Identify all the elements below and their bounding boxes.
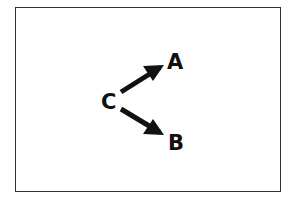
arrow-layer bbox=[0, 0, 298, 204]
node-label-c: C bbox=[101, 92, 116, 113]
arrow-c-to-b bbox=[121, 109, 164, 135]
arrow-c-to-a bbox=[121, 65, 164, 92]
node-label-b: B bbox=[168, 133, 184, 154]
node-label-a: A bbox=[167, 52, 183, 73]
